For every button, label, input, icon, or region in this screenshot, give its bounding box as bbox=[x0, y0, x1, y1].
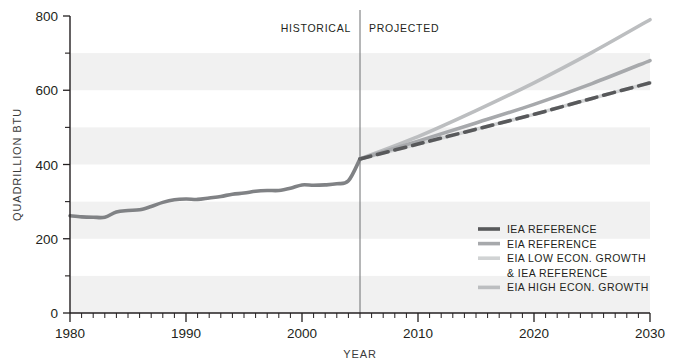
legend-label: & IEA REFERENCE bbox=[507, 267, 608, 279]
y-tick-label: 600 bbox=[35, 83, 58, 98]
y-axis-ticks bbox=[63, 16, 70, 313]
y-tick-label: 400 bbox=[35, 158, 58, 173]
x-tick-label: 2000 bbox=[287, 326, 317, 341]
x-tick-label: 2020 bbox=[519, 326, 549, 341]
x-tick-label: 1980 bbox=[55, 326, 85, 341]
y-tick-labels: 0200400600800 bbox=[35, 9, 58, 321]
chart-container: 0200400600800 198019902000201020202030 H… bbox=[0, 0, 675, 361]
x-tick-label: 1990 bbox=[171, 326, 201, 341]
legend-label: EIA REFERENCE bbox=[507, 238, 597, 250]
x-tick-label: 2010 bbox=[403, 326, 433, 341]
x-axis-title: YEAR bbox=[343, 348, 377, 360]
line-chart: 0200400600800 198019902000201020202030 H… bbox=[0, 0, 675, 361]
historical-label: HISTORICAL bbox=[281, 22, 351, 34]
y-tick-label: 800 bbox=[35, 9, 58, 24]
x-tick-labels: 198019902000201020202030 bbox=[55, 326, 665, 341]
y-tick-label: 0 bbox=[50, 306, 58, 321]
y-tick-label: 200 bbox=[35, 232, 58, 247]
legend-label: EIA LOW ECON. GROWTH bbox=[507, 252, 646, 264]
projected-label: PROJECTED bbox=[369, 22, 439, 34]
x-axis-ticks bbox=[70, 313, 650, 322]
y-axis-title: QUADRILLION BTU bbox=[11, 108, 23, 221]
legend-label: EIA HIGH ECON. GROWTH bbox=[507, 281, 649, 293]
legend-label: IEA REFERENCE bbox=[507, 223, 597, 235]
x-tick-label: 2030 bbox=[635, 326, 665, 341]
